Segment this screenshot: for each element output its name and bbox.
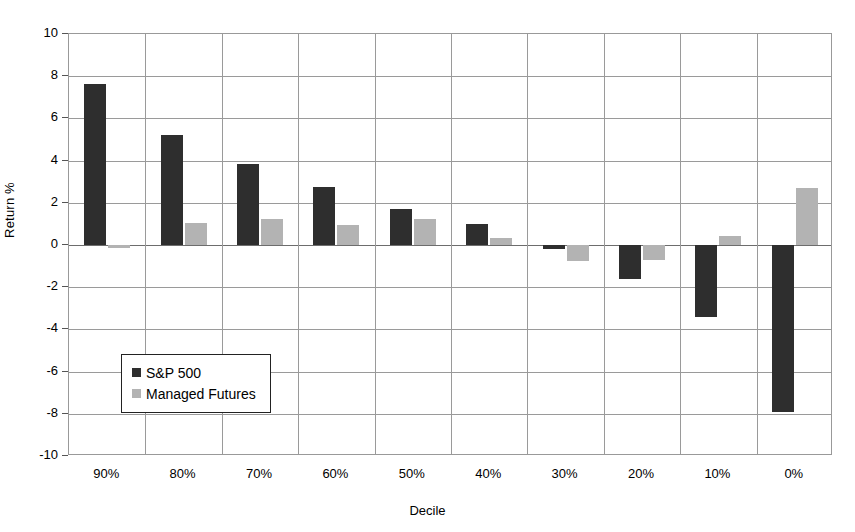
x-tick-label-70pct: 70% (224, 466, 294, 481)
gridline-y-6 (69, 118, 831, 119)
legend-item-managed-futures: Managed Futures (132, 383, 256, 404)
y-tick-label: -6 (18, 364, 58, 377)
gridline-y-4 (69, 161, 831, 162)
bar-sp500-80pct (161, 135, 183, 245)
y-tick-label: 2 (18, 195, 58, 208)
gridline-x-6 (527, 34, 528, 454)
x-tick-label-60pct: 60% (300, 466, 370, 481)
y-tick-label: -4 (18, 321, 58, 334)
x-tick-label-20pct: 20% (606, 466, 676, 481)
bar-managed-futures-70pct (261, 219, 283, 245)
gridline-y-2 (69, 203, 831, 204)
legend-swatch-icon-managed-futures (132, 389, 141, 398)
y-tick-label: 6 (18, 110, 58, 123)
bar-managed-futures-10pct (719, 236, 741, 245)
y-tick-label: -8 (18, 406, 58, 419)
bar-managed-futures-60pct (337, 225, 359, 245)
y-tick-label: -2 (18, 279, 58, 292)
bar-sp500-20pct (619, 245, 641, 279)
legend-label-sp500: S&P 500 (146, 365, 201, 381)
plot-area: S&P 500 Managed Futures (68, 33, 832, 455)
y-tick-mark (62, 455, 68, 456)
x-tick-label-0pct: 0% (759, 466, 829, 481)
x-tick-label-40pct: 40% (453, 466, 523, 481)
x-tick-label-80pct: 80% (148, 466, 218, 481)
bar-sp500-30pct (543, 245, 565, 249)
legend-swatch-icon-sp500 (132, 368, 141, 377)
gridline-x-3 (298, 34, 299, 454)
gridline-x-9 (757, 34, 758, 454)
bar-sp500-10pct (695, 245, 717, 317)
gridline-y--8 (69, 414, 831, 415)
x-axis-title: Decile (0, 503, 855, 518)
y-tick-label: 4 (18, 153, 58, 166)
gridline-y--4 (69, 329, 831, 330)
bar-sp500-50pct (390, 209, 412, 245)
gridline-x-5 (451, 34, 452, 454)
y-tick-label: -10 (18, 448, 58, 461)
bar-managed-futures-80pct (185, 223, 207, 245)
legend-item-sp500: S&P 500 (132, 362, 256, 383)
legend-label-managed-futures: Managed Futures (146, 386, 256, 402)
x-tick-label-10pct: 10% (682, 466, 752, 481)
x-tick-label-90pct: 90% (71, 466, 141, 481)
y-tick-label: 8 (18, 68, 58, 81)
gridline-x-4 (375, 34, 376, 454)
bar-sp500-0pct (772, 245, 794, 412)
x-tick-label-30pct: 30% (530, 466, 600, 481)
y-axis-title: Return % (2, 150, 17, 270)
bar-managed-futures-30pct (567, 245, 589, 261)
bar-sp500-40pct (466, 224, 488, 245)
bar-chart: Return % 1086420-2-4-6-8-10 S&P 500 Mana… (0, 0, 855, 532)
chart-legend: S&P 500 Managed Futures (121, 354, 271, 413)
bar-managed-futures-50pct (414, 219, 436, 245)
gridline-y-8 (69, 76, 831, 77)
bar-sp500-60pct (313, 187, 335, 245)
y-tick-label: 0 (18, 237, 58, 250)
bar-managed-futures-90pct (108, 245, 130, 248)
gridline-x-7 (604, 34, 605, 454)
bar-sp500-90pct (84, 84, 106, 245)
x-tick-label-50pct: 50% (377, 466, 447, 481)
bar-managed-futures-40pct (490, 238, 512, 245)
bar-managed-futures-20pct (643, 245, 665, 260)
bar-managed-futures-0pct (796, 188, 818, 245)
y-tick-label: 10 (18, 26, 58, 39)
bar-sp500-70pct (237, 164, 259, 245)
gridline-x-8 (680, 34, 681, 454)
